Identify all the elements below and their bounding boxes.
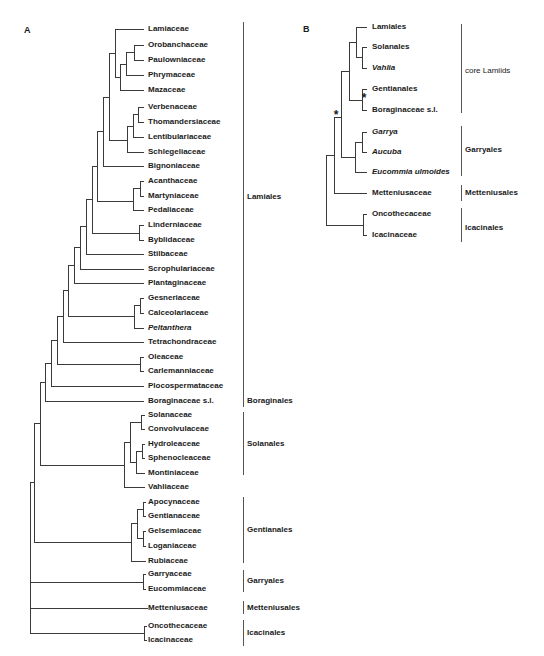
clade-label: Boraginales — [247, 396, 293, 406]
taxon-label: Thomandersiaceae — [148, 117, 220, 127]
clade-bracket — [461, 24, 462, 113]
taxon-label: Peltanthera — [148, 323, 192, 333]
taxon-label: Metteniusaceae — [372, 188, 432, 198]
taxon-label: Eucommiaceae — [148, 584, 206, 594]
taxon-label: Lamiaceae — [148, 24, 189, 34]
taxon-label: Boraginaceae s.l. — [148, 396, 214, 406]
clade-label: Gentianales — [247, 525, 292, 535]
taxon-label: Oncothecaceae — [148, 621, 207, 631]
taxon-label: Gesneriaceae — [148, 293, 200, 303]
taxon-label: Apocynaceae — [148, 497, 200, 507]
clade-bracket — [243, 395, 244, 407]
taxon-label: Gentianaceae — [148, 511, 200, 521]
taxon-label: Linderniaceae — [148, 220, 202, 230]
clade-label: Garryales — [247, 576, 284, 586]
taxon-label: Oleaceae — [148, 352, 183, 362]
taxon-label: Tetrachondraceae — [148, 337, 216, 347]
taxon-label: Phrymaceae — [148, 70, 195, 80]
taxon-label: Plocospermataceae — [148, 381, 223, 391]
taxon-label: Gentianales — [372, 84, 417, 94]
taxon-label: Plantaginaceae — [148, 278, 206, 288]
taxon-label: Loganiaceae — [148, 541, 196, 551]
taxon-label: Scrophulariaceae — [148, 264, 215, 274]
taxon-label: Gelsemiaceae — [148, 526, 201, 536]
taxon-label: Lentibulariaceae — [148, 132, 211, 142]
clade-label: Lamiales — [247, 192, 281, 202]
taxon-label: Martyniaceae — [148, 191, 199, 201]
clade-bracket — [461, 126, 462, 176]
taxon-label: Eucommia ulmoides — [372, 167, 450, 177]
panel-a-tree — [0, 0, 544, 656]
taxon-label: Orobanchaceae — [148, 40, 208, 50]
clade-label: Metteniusales — [247, 603, 300, 613]
taxon-label: Boraginaceae s.l. — [372, 105, 438, 115]
taxon-label: Vahlia — [372, 63, 395, 73]
taxon-label: Acanthaceae — [148, 176, 197, 186]
clade-label: core Lamiids — [465, 66, 510, 76]
clade-label: Icacinales — [465, 223, 503, 233]
taxon-label: Rubiaceae — [148, 556, 188, 566]
taxon-label: Mazaceae — [148, 85, 185, 95]
clade-bracket — [461, 185, 462, 201]
taxon-label: Metteniusaceae — [148, 603, 208, 613]
taxon-label: Paulowniaceae — [148, 55, 205, 65]
clade-bracket — [243, 620, 244, 646]
taxon-label: Pedaliaceae — [148, 205, 194, 215]
taxon-label: Byblidaceae — [148, 235, 195, 245]
support-star-icon: * — [362, 92, 367, 104]
clade-bracket — [461, 208, 462, 242]
taxon-label: Solanaceae — [148, 410, 192, 420]
clade-bracket — [243, 570, 244, 592]
taxon-label: Convolvulaceae — [148, 424, 209, 434]
taxon-label: Montiniaceae — [148, 468, 199, 478]
taxon-label: Schlegeliaceae — [148, 147, 205, 157]
clade-bracket — [243, 601, 244, 614]
clade-bracket — [243, 497, 244, 563]
taxon-label: Calceolariaceae — [148, 308, 209, 318]
taxon-label: Bignoniaceae — [148, 161, 200, 171]
taxon-label: Vahliaceae — [148, 482, 189, 492]
clade-bracket — [243, 412, 244, 475]
taxon-label: Aucuba — [372, 147, 401, 157]
taxon-label: Solanales — [372, 42, 409, 52]
taxon-label: Verbenaceae — [148, 102, 197, 112]
taxon-label: Lamiales — [372, 22, 406, 32]
taxon-label: Icacinaceae — [372, 230, 417, 240]
taxon-label: Carlemanniaceae — [148, 366, 214, 376]
support-star-icon: * — [334, 109, 339, 121]
clade-label: Metteniusales — [465, 188, 518, 198]
clade-label: Icacinales — [247, 628, 285, 638]
clade-label: Garryales — [465, 145, 502, 155]
taxon-label: Hydroleaceae — [148, 439, 200, 449]
taxon-label: Icacinaceae — [148, 635, 193, 645]
taxon-label: Garryaceae — [148, 569, 192, 579]
clade-label: Solanales — [247, 439, 284, 449]
taxon-label: Stilbaceae — [148, 249, 188, 259]
clade-bracket — [243, 22, 244, 395]
taxon-label: Garrya — [372, 127, 398, 137]
taxon-label: Oncothecaceae — [372, 209, 431, 219]
taxon-label: Sphenocleaceae — [148, 453, 211, 463]
